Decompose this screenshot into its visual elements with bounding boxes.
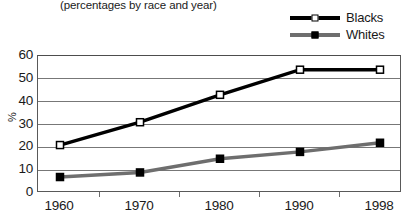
data-point: [57, 174, 64, 181]
legend-swatch-whites: [290, 28, 340, 42]
hollow-square-icon: [312, 14, 319, 21]
x-axis-tick: [99, 192, 100, 197]
legend-label-blacks: Blacks: [346, 11, 383, 24]
y-tick-label: 30: [0, 117, 33, 131]
x-axis-tick: [179, 192, 180, 197]
y-tick-label: 20: [0, 140, 33, 154]
y-tick-label: 50: [0, 71, 33, 85]
x-tick-label: 1960: [45, 199, 74, 213]
data-point: [217, 91, 224, 98]
series-whites: [57, 139, 384, 180]
x-tick-label: 1970: [125, 199, 154, 213]
chart-legend: Blacks Whites: [290, 9, 402, 43]
data-point: [137, 169, 144, 176]
legend-item-whites: Whites: [290, 26, 402, 43]
chart-subtitle: (percentages by race and year): [60, 0, 217, 11]
y-tick-label: 40: [0, 94, 33, 108]
x-axis-tick: [339, 192, 340, 197]
data-series-layer: [38, 56, 402, 193]
legend-item-blacks: Blacks: [290, 9, 402, 26]
data-point: [377, 139, 384, 146]
x-axis-tick: [259, 192, 260, 197]
y-tick-label: 60: [0, 48, 33, 62]
data-point: [297, 148, 304, 155]
data-point: [217, 155, 224, 162]
chart-figure: (percentages by race and year) Blacks Wh…: [0, 0, 406, 221]
data-point: [57, 142, 64, 149]
x-tick-label: 1990: [285, 199, 314, 213]
y-tick-label: 10: [0, 162, 33, 176]
plot-area: [37, 55, 401, 192]
x-tick-label: 1980: [205, 199, 234, 213]
data-point: [297, 66, 304, 73]
y-axis-tick-labels: 6050403020100: [0, 0, 33, 221]
legend-swatch-blacks: [290, 11, 340, 25]
legend-label-whites: Whites: [346, 28, 385, 41]
series-blacks: [57, 66, 384, 148]
series-line: [60, 70, 380, 145]
data-point: [137, 119, 144, 126]
filled-square-icon: [312, 31, 319, 38]
data-point: [377, 66, 384, 73]
x-tick-label: 1998: [365, 199, 394, 213]
y-tick-label: 0: [0, 185, 33, 199]
